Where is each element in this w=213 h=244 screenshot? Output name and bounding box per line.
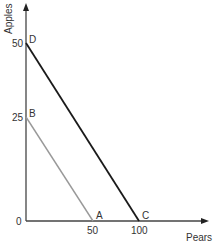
x-axis-label: Pears	[186, 232, 212, 243]
y-tick-50: 50	[12, 38, 24, 49]
point-label-b: B	[29, 108, 36, 119]
y-axis-arrow-icon	[23, 3, 29, 11]
y-axis-label: Apples	[3, 3, 14, 34]
x-tick-100: 100	[131, 225, 148, 236]
chart: Apples Pears 0 50 25 50 100 D B A C	[0, 0, 213, 244]
origin-label: 0	[16, 216, 22, 227]
line-dc	[26, 43, 139, 221]
y-tick-25: 25	[12, 112, 24, 123]
point-label-c: C	[142, 210, 149, 221]
x-tick-50: 50	[87, 225, 99, 236]
point-label-a: A	[96, 210, 103, 221]
x-axis-arrow-icon	[201, 218, 209, 224]
point-label-d: D	[29, 34, 36, 45]
